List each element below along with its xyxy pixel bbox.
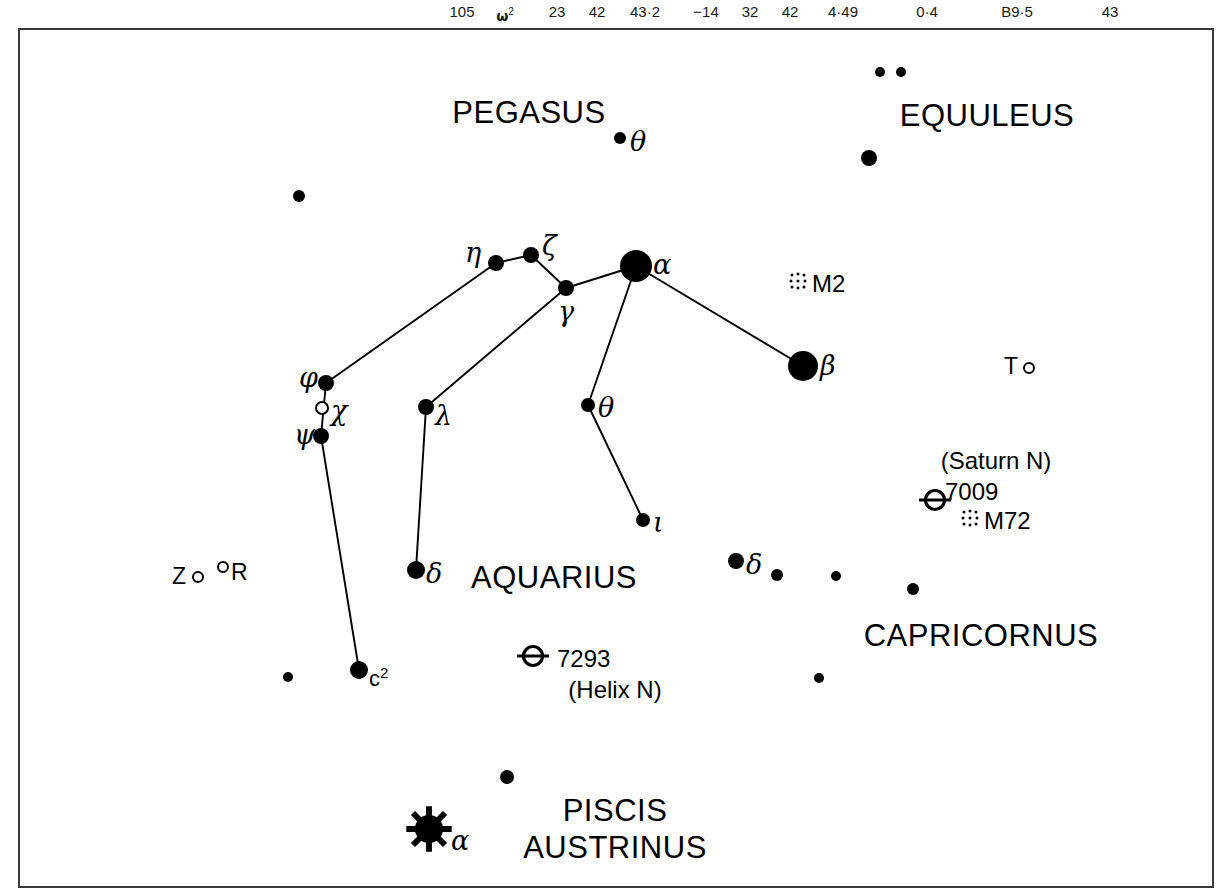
star-chart-page: 105ω2234243·2−1432424·490·4B9·543 θηζγαβ… — [0, 0, 1232, 895]
constellation-name-aquarius: AQUARIUS — [471, 561, 637, 595]
star-aqr-eta — [488, 255, 504, 271]
constellation-name-equuleus: EQUULEUS — [900, 99, 1075, 133]
star-aqr-iota — [636, 513, 650, 527]
header-data-strip: 105ω2234243·2−1432424·490·4B9·543 — [0, 0, 1232, 28]
header-cell-10: B9·5 — [1001, 2, 1033, 22]
star-label-aqr-eta: η — [465, 239, 481, 266]
header-cell-7: 42 — [782, 2, 799, 22]
star-equ-field-1 — [875, 67, 885, 77]
deep-sky-label-m72: M72 — [984, 507, 1031, 534]
star-peg-field-1 — [293, 190, 305, 202]
star-aqr-c2 — [350, 661, 368, 679]
variable-star-label-T: T — [1004, 355, 1018, 378]
star-label-aqr-alpha: α — [653, 251, 671, 278]
star-aqr-beta — [788, 351, 818, 381]
star-equ-field-2 — [896, 67, 906, 77]
star-cap-field-3 — [907, 583, 919, 595]
chart-inner: θηζγαβφχψλθιδc2δαTZRPEGASUSEQUULEUSAQUAR… — [18, 28, 1214, 888]
star-aqr-field-1 — [283, 672, 293, 682]
star-aqr-psi — [313, 428, 329, 444]
star-label-aqr-psi: ψ — [294, 421, 315, 448]
star-label-aqr-beta: β — [820, 352, 836, 379]
star-psa-field-1 — [500, 770, 514, 784]
star-label-aqr-zeta: ζ — [542, 232, 557, 259]
globular-cluster-symbol-m72 — [960, 508, 980, 532]
header-cell-5: −14 — [693, 2, 718, 22]
chart-objects-layer: θηζγαβφχψλθιδc2δαTZRPEGASUSEQUULEUSAQUAR… — [18, 28, 1214, 888]
star-aqr-theta — [581, 398, 595, 412]
chart-frame: θηζγαβφχψλθιδc2δαTZRPEGASUSEQUULEUSAQUAR… — [18, 28, 1214, 888]
star-cap-field-4 — [814, 673, 824, 683]
star-label-aqr-phi: φ — [299, 364, 318, 391]
star-aqr-delta — [407, 561, 425, 579]
header-cell-4: 43·2 — [630, 2, 660, 22]
header-cell-11: 43 — [1102, 2, 1119, 22]
variable-star-R — [217, 561, 229, 573]
star-label-psa-alpha: α — [451, 827, 469, 854]
header-cell-9: 0·4 — [916, 2, 938, 22]
variable-star-Z — [192, 571, 204, 583]
star-label-aqr-lambda: λ — [435, 402, 452, 429]
star-cap-field-1 — [771, 569, 783, 581]
deep-sky-label-ngc7009: 7009 — [945, 478, 998, 505]
star-label-aqr-theta: θ — [598, 394, 614, 421]
star-aqr-phi — [318, 375, 334, 391]
constellation-name-pegasus: PEGASUS — [452, 96, 605, 130]
star-aqr-gamma — [558, 280, 574, 296]
header-cell-1: ω2 — [496, 2, 514, 26]
deep-sky-note-ngc7293: (Helix N) — [568, 676, 661, 703]
planetary-nebula-symbol-ngc7293 — [516, 643, 550, 673]
star-label-aqr-delta: δ — [426, 560, 442, 587]
star-label-aqr-chi: χ — [331, 397, 347, 424]
star-aqr-lambda — [418, 399, 434, 415]
deep-sky-label-m2: M2 — [812, 270, 845, 297]
deep-sky-note-ngc7009: (Saturn N) — [941, 447, 1052, 474]
constellation-name-capricornus: CAPRICORNUS — [864, 619, 1099, 653]
header-cell-0: 105 — [449, 2, 474, 22]
header-cell-8: 4·49 — [828, 2, 858, 22]
header-cell-2: 23 — [549, 2, 566, 22]
star-label-cap-delta: δ — [746, 551, 762, 578]
variable-star-label-R: R — [231, 561, 248, 584]
deep-sky-label-ngc7293: 7293 — [557, 645, 610, 672]
star-peg-theta — [614, 132, 626, 144]
star-aqr-chi — [315, 401, 329, 415]
header-cell-3: 42 — [589, 2, 606, 22]
star-cap-field-2 — [831, 571, 841, 581]
variable-star-label-Z: Z — [172, 565, 186, 588]
star-label-aqr-gamma: γ — [558, 298, 574, 325]
star-aqr-zeta — [523, 247, 539, 263]
star-cap-delta — [728, 553, 744, 569]
header-cell-6: 32 — [742, 2, 759, 22]
star-label-peg-theta: θ — [630, 128, 646, 155]
star-equ-alpha — [861, 150, 877, 166]
star-label-aqr-c2: c2 — [369, 662, 388, 690]
variable-star-T — [1023, 362, 1035, 374]
star-aqr-alpha — [620, 250, 652, 282]
star-label-aqr-iota: ι — [653, 509, 664, 536]
globular-cluster-symbol-m2 — [788, 271, 808, 295]
constellation-name-piscis-austrinus: PISCISAUSTRINUS — [523, 792, 707, 866]
